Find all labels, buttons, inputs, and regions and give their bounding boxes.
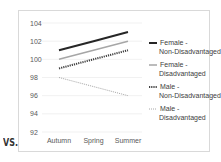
legend-label: Disadvantaged bbox=[159, 70, 206, 78]
x-axis-ticks: AutumnSpringSummer bbox=[47, 137, 142, 145]
legend-label: Male - bbox=[160, 105, 180, 112]
legend-label: Female - bbox=[160, 39, 188, 46]
y-tick-label: 98 bbox=[30, 74, 38, 81]
legend-label: Non-Disadvantaged bbox=[159, 92, 221, 100]
legend-label: Non-Disadvantaged bbox=[159, 48, 221, 56]
y-tick-label: 96 bbox=[30, 92, 38, 99]
y-tick-label: 94 bbox=[30, 110, 38, 117]
y-tick-label: 100 bbox=[30, 56, 42, 63]
x-tick-label: Autumn bbox=[47, 137, 71, 144]
series-lines bbox=[59, 32, 128, 96]
legend: Female -Non-DisadvantagedFemale -Disadva… bbox=[149, 39, 221, 122]
y-axis-ticks: 92949698100102104 bbox=[30, 20, 42, 136]
y-tick-label: 92 bbox=[30, 129, 38, 136]
legend-label: Male - bbox=[160, 83, 180, 90]
x-tick-label: Spring bbox=[83, 137, 103, 145]
y-tick-label: 102 bbox=[30, 38, 42, 45]
series-line bbox=[59, 41, 128, 59]
y-tick-label: 104 bbox=[30, 20, 42, 27]
x-tick-label: Summer bbox=[115, 137, 142, 144]
legend-label: Disadvantaged bbox=[159, 114, 206, 122]
line-chart: 92949698100102104 AutumnSpringSummer Fem… bbox=[0, 0, 221, 162]
legend-label: Female - bbox=[160, 61, 188, 68]
series-line bbox=[59, 78, 128, 96]
gridlines bbox=[42, 23, 142, 132]
